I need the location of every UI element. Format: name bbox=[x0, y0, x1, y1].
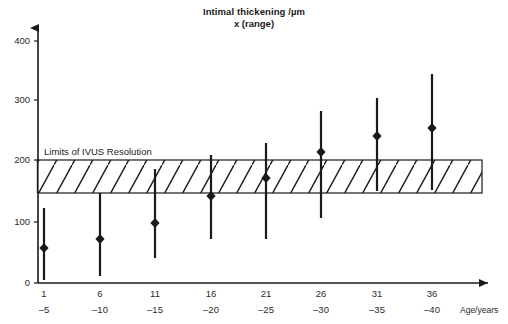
x-tick-label: –15 bbox=[147, 304, 163, 315]
data-point-group bbox=[95, 193, 104, 276]
x-tick-label: –10 bbox=[92, 304, 108, 315]
x-tick-label: –40 bbox=[424, 304, 440, 315]
y-tick-label: 200 bbox=[14, 154, 30, 165]
y-tick-label: 300 bbox=[14, 94, 30, 105]
x-tick-labels-end: –5 –10 –15 –20 –25 –30 –35 –40 bbox=[39, 304, 440, 315]
ivus-resolution-band bbox=[38, 160, 482, 193]
x-tick-label: 6 bbox=[97, 288, 102, 299]
y-tick-labels: 0 100 200 300 400 bbox=[14, 35, 30, 288]
y-tick-label: 100 bbox=[14, 216, 30, 227]
mean-marker bbox=[39, 243, 48, 253]
mean-marker bbox=[95, 234, 104, 244]
mean-marker bbox=[150, 218, 159, 228]
x-tick-label: 16 bbox=[206, 288, 217, 299]
x-axis-label: Age/years bbox=[460, 305, 498, 315]
x-tick-label: 31 bbox=[372, 288, 383, 299]
y-tick-label: 400 bbox=[14, 35, 30, 46]
x-tick-label: 26 bbox=[316, 288, 327, 299]
x-tick-label: –20 bbox=[203, 304, 219, 315]
data-point-group bbox=[39, 208, 48, 280]
x-tick-label: –25 bbox=[258, 304, 274, 315]
x-tick-label: 11 bbox=[150, 288, 160, 299]
x-tick-label: 1 bbox=[41, 288, 46, 299]
y-tick-label: 0 bbox=[25, 277, 30, 288]
x-tick-label: –5 bbox=[39, 304, 50, 315]
ivus-band-label: Limits of IVUS Resolution bbox=[44, 146, 152, 157]
x-tick-labels-start: 1 6 11 16 21 26 31 36 bbox=[41, 288, 437, 299]
x-tick-label: 36 bbox=[427, 288, 438, 299]
x-tick-label: –30 bbox=[313, 304, 329, 315]
x-tick-label: –35 bbox=[369, 304, 385, 315]
plot-area: 0 100 200 300 400 Limits of IVUS Resolut… bbox=[0, 0, 508, 324]
chart-container: Intimal thickening /µm x (range) bbox=[0, 0, 508, 324]
mean-marker bbox=[316, 147, 325, 157]
mean-marker bbox=[372, 131, 381, 141]
mean-marker bbox=[427, 123, 436, 133]
x-tick-label: 21 bbox=[261, 288, 272, 299]
